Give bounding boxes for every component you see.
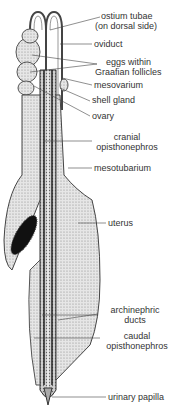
label-shell-gland: shell gland — [92, 96, 135, 105]
label-cranial: cranial — [94, 133, 160, 142]
opisthonephros — [40, 60, 56, 398]
left-caudal — [29, 260, 40, 385]
label-caudal: caudal — [102, 332, 172, 341]
label-oviduct: oviduct — [94, 40, 123, 49]
label-archinephric-ducts: ducts — [100, 316, 170, 325]
ovary — [16, 29, 40, 95]
label-eggs: eggs within — [106, 58, 151, 67]
label-ovary: ovary — [92, 112, 114, 121]
label-ostium-tubae: ostium tubae — [101, 12, 153, 21]
label-caudal-opisthonephros: opisthonephros — [102, 342, 172, 351]
label-ostium-tubae-note: (on dorsal side) — [95, 22, 157, 31]
label-cranial-opisthonephros: opisthonephros — [94, 143, 160, 152]
label-graafian: Graafian follicles — [95, 68, 162, 77]
label-uterus: uterus — [108, 219, 133, 228]
label-archinephric: archinephric — [100, 306, 170, 315]
label-urinary-papilla: urinary papilla — [108, 393, 164, 402]
shell-gland — [60, 79, 68, 91]
label-mesovarium: mesovarium — [94, 81, 143, 90]
label-mesotubarium: mesotubarium — [94, 164, 151, 173]
left-uterus — [4, 95, 42, 270]
